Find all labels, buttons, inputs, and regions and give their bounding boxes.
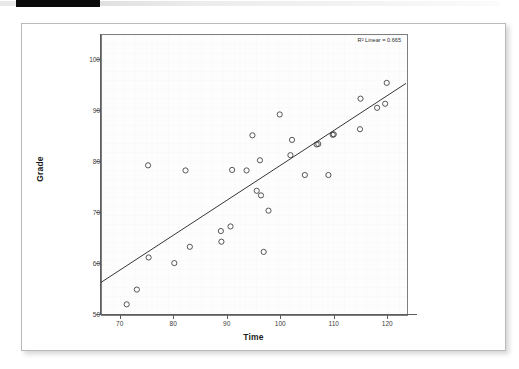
x-tick-label-70: 70 [107,320,133,327]
x-tick-label-100: 100 [267,320,293,327]
y-tick-60: 60 [22,260,100,267]
x-tick-label-80: 80 [160,320,186,327]
data-point [172,260,177,265]
y-axis-title: Grade [35,139,45,199]
data-point [358,96,363,101]
scatter-plot-figure: R² Linear = 0.665 5060708090100 70809010… [22,24,505,350]
y-tick-mark [96,314,100,315]
data-point [145,163,150,168]
x-tick-mark [334,315,335,319]
x-axis-title: Time [101,332,406,342]
data-point [288,153,293,158]
x-tick-mark [280,315,281,319]
y-tick-mark [96,59,100,60]
y-axis-ticks: 5060708090100 [22,24,100,350]
data-point [254,188,259,193]
x-tick-mark [173,315,174,319]
data-point [183,168,188,173]
x-axis-line [100,314,417,315]
data-point [146,255,151,260]
data-point [326,172,331,177]
y-tick-70: 70 [22,209,100,216]
y-tick-80: 80 [22,158,100,165]
x-tick-label-90: 90 [214,320,240,327]
y-tick-mark [96,110,100,111]
data-point [289,137,294,142]
data-point [218,228,223,233]
window-scan-bar [0,0,519,8]
data-point [266,208,271,213]
scan-bar-right-gray [100,1,500,6]
y-tick-90: 90 [22,107,100,114]
scan-bar-left-gray [0,1,16,6]
data-point [261,249,266,254]
y-tick-100: 100 [22,56,100,63]
y-tick-mark [96,161,100,162]
regression-line [101,83,406,282]
x-tick-mark [227,315,228,319]
x-tick-mark [120,315,121,319]
data-point [187,244,192,249]
data-point [228,224,233,229]
data-point [244,168,249,173]
data-point [277,112,282,117]
data-point [134,287,139,292]
data-point [302,172,307,177]
data-point [375,105,380,110]
data-point [219,239,224,244]
y-tick-50: 50 [22,311,100,318]
x-tick-label-110: 110 [321,320,347,327]
data-point [257,158,262,163]
data-point [124,302,129,307]
y-tick-mark [96,212,100,213]
data-point [250,133,255,138]
plot-data-layer [101,34,406,314]
x-tick-label-120: 120 [374,320,400,327]
scan-bar-black [16,0,100,7]
document-page-card: R² Linear = 0.665 5060708090100 70809010… [21,23,506,351]
data-point [258,193,263,198]
data-point [384,80,389,85]
x-tick-mark [387,315,388,319]
y-tick-mark [96,263,100,264]
data-point [229,167,234,172]
data-point [383,101,388,106]
data-point [357,127,362,132]
